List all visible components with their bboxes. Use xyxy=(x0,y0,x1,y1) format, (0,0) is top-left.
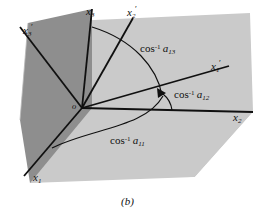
axis-label-x1-prime: x1′ xyxy=(211,59,221,74)
origin-label: o xyxy=(72,102,76,111)
figure-caption: (b) xyxy=(121,196,134,207)
figure-direction-cosines: x1 x2 x3 x1′ x2′ x3′ o cos-1a13 cos-1a12… xyxy=(0,0,263,216)
axis-label-x2-prime: x2′ xyxy=(127,5,137,20)
annotation-cos-a13: cos-1a13 xyxy=(140,43,175,56)
axis-label-x3: x3 xyxy=(86,6,94,19)
axis-label-x1: x1 xyxy=(33,172,41,185)
annotation-cos-a12: cos-1a12 xyxy=(174,89,209,102)
axis-label-x3-prime: x3′ xyxy=(23,23,33,38)
axis-label-x2: x2 xyxy=(233,112,241,125)
annotation-cos-a11: cos-1a11 xyxy=(110,135,145,148)
